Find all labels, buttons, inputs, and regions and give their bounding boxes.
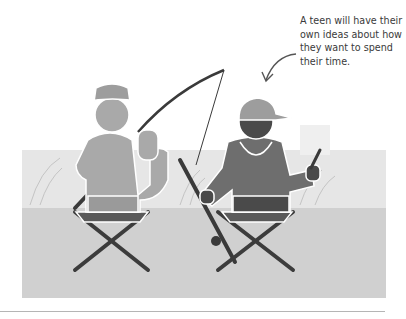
background-panel	[22, 150, 386, 298]
annotation-caption: A teen will have their own ideas about h…	[300, 14, 406, 68]
caption-line: their time.	[300, 55, 406, 69]
caption-line: own ideas about how	[300, 28, 406, 42]
light-glow	[300, 125, 330, 155]
divider	[0, 311, 385, 312]
caption-line: they want to spend	[300, 41, 406, 55]
caption-line: A teen will have their	[300, 14, 406, 28]
